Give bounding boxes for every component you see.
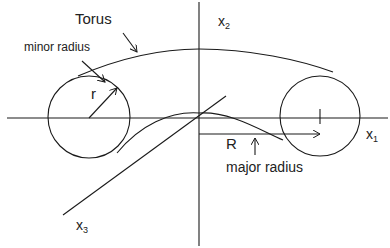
x3-axis <box>63 96 226 215</box>
torus-diagram: Torus minor radius r R major radius x1 x… <box>0 0 390 248</box>
x3-base: x <box>76 217 83 233</box>
torus-pointer <box>123 33 137 52</box>
minor-radius-label: minor radius <box>24 41 90 53</box>
torus-inner-silhouette <box>117 113 283 153</box>
diagram-drawing <box>0 0 390 248</box>
left-cross-section-circle <box>48 76 130 158</box>
x2-base: x <box>218 13 225 29</box>
x1-axis-label: x1 <box>366 127 378 144</box>
torus-outer-silhouette <box>78 49 333 76</box>
x2-axis-label: x2 <box>218 14 230 31</box>
x1-subscript: 1 <box>373 134 378 144</box>
torus-label: Torus <box>75 11 112 26</box>
minor-radius-pointer <box>82 61 105 82</box>
major-radius-label: major radius <box>226 160 303 174</box>
x3-subscript: 3 <box>83 225 88 235</box>
r-label: r <box>91 86 96 101</box>
x3-axis-label: x3 <box>76 218 88 235</box>
x1-base: x <box>366 126 373 142</box>
x2-subscript: 2 <box>225 21 230 31</box>
R-label: R <box>226 136 237 151</box>
